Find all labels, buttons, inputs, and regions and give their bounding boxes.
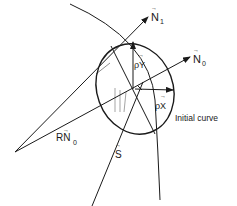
label-n1: → N 1 <box>151 5 164 25</box>
label-n0: → N 0 <box>193 47 206 67</box>
hatch-line <box>124 92 126 112</box>
svg-text:ρY: ρY <box>134 60 145 70</box>
svg-text:0: 0 <box>202 60 206 67</box>
label-s: → S <box>115 142 122 160</box>
svg-text:N: N <box>151 11 159 23</box>
svg-text:→: → <box>138 52 144 58</box>
svg-text:RN: RN <box>56 132 70 143</box>
svg-text:0: 0 <box>73 139 77 146</box>
label-rn0: → RN 0 <box>56 127 77 146</box>
svg-text:ρX: ρX <box>155 101 166 111</box>
svg-text:S: S <box>115 149 122 160</box>
svg-text:N: N <box>193 53 201 65</box>
svg-text:→: → <box>160 93 166 99</box>
svg-text:1: 1 <box>160 18 164 25</box>
svg-text:→: → <box>115 142 121 148</box>
label-rho-x: → ρX <box>155 93 166 111</box>
label-rho-y: → ρY <box>134 52 145 70</box>
diagram-canvas: → N 1 → N 0 → RN 0 → S → ρY → ρX Initial… <box>0 0 237 206</box>
label-initial-curve: Initial curve <box>175 113 218 123</box>
